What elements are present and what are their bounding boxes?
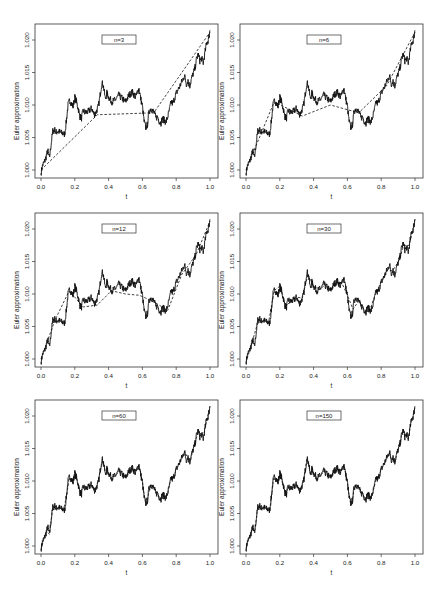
y-tick-label: 1.020 <box>228 32 235 48</box>
exact-path-line <box>246 30 415 175</box>
y-tick-label: 1.005 <box>228 129 235 145</box>
y-axis-label: Euler approximation <box>218 271 226 329</box>
legend-label: n=60 <box>112 413 126 419</box>
y-tick-label: 1.015 <box>23 64 30 80</box>
x-axis: 0.00.20.40.60.81.0 <box>242 554 420 566</box>
y-tick-label: 1.005 <box>228 318 235 334</box>
euler-plot: 0.00.20.40.60.81.0t1.0001.0051.0101.0151… <box>205 376 430 576</box>
y-tick-label: 1.020 <box>228 408 235 424</box>
x-tick-label: 0.8 <box>172 559 181 566</box>
y-tick-label: 1.010 <box>228 286 235 302</box>
x-axis-label: t <box>126 569 128 576</box>
euler-plot: 0.00.20.40.60.81.0t1.0001.0051.0101.0151… <box>0 0 225 200</box>
y-tick-label: 1.005 <box>23 505 30 521</box>
y-tick-label: 1.020 <box>23 408 30 424</box>
x-tick-label: 1.0 <box>411 559 420 566</box>
x-tick-label: 0.0 <box>37 559 46 566</box>
legend-box: n=150 <box>307 411 341 420</box>
legend-label: n=30 <box>317 226 331 232</box>
y-axis-label: Euler approximation <box>13 458 21 516</box>
euler-plot: 0.00.20.40.60.81.0t1.0001.0051.0101.0151… <box>205 0 430 200</box>
y-axis-label: Euler approximation <box>13 82 21 140</box>
y-axis: 1.0001.0051.0101.0151.020 <box>23 221 35 367</box>
x-tick-label: 0.4 <box>309 559 318 566</box>
y-tick-label: 1.010 <box>23 97 30 113</box>
panel-n30: 0.00.20.40.60.81.0t1.0001.0051.0101.0151… <box>205 189 430 389</box>
y-tick-label: 1.010 <box>23 473 30 489</box>
x-tick-label: 0.8 <box>377 559 386 566</box>
x-tick-label: 0.2 <box>70 559 79 566</box>
legend-label: n=12 <box>112 226 126 232</box>
y-tick-label: 1.015 <box>228 253 235 269</box>
legend-box: n=6 <box>307 35 341 44</box>
panel-n3: 0.00.20.40.60.81.0t1.0001.0051.0101.0151… <box>0 0 225 200</box>
euler-plot: 0.00.20.40.60.81.0t1.0001.0051.0101.0151… <box>0 189 225 389</box>
y-tick-label: 1.005 <box>228 505 235 521</box>
panel-n150: 0.00.20.40.60.81.0t1.0001.0051.0101.0151… <box>205 376 430 576</box>
panel-n60: 0.00.20.40.60.81.0t1.0001.0051.0101.0151… <box>0 376 225 576</box>
exact-path-line <box>246 219 415 364</box>
y-tick-label: 1.020 <box>23 221 30 237</box>
x-axis: 0.00.20.40.60.81.0 <box>37 554 215 566</box>
y-tick-label: 1.005 <box>23 129 30 145</box>
y-tick-label: 1.015 <box>23 440 30 456</box>
y-tick-label: 1.015 <box>228 64 235 80</box>
legend-box: n=30 <box>307 224 341 233</box>
exact-path-line <box>246 406 415 551</box>
y-axis: 1.0001.0051.0101.0151.020 <box>23 32 35 178</box>
y-axis-label: Euler approximation <box>218 82 226 140</box>
legend-box: n=60 <box>102 411 136 420</box>
y-axis-label: Euler approximation <box>218 458 226 516</box>
x-tick-label: 0.6 <box>343 559 352 566</box>
x-tick-label: 0.2 <box>275 559 284 566</box>
x-tick-label: 0.4 <box>104 559 113 566</box>
exact-path-line <box>41 30 210 175</box>
legend-label: n=150 <box>316 413 334 419</box>
y-tick-label: 1.000 <box>23 538 30 554</box>
y-axis: 1.0001.0051.0101.0151.020 <box>228 408 240 554</box>
x-tick-label: 0.0 <box>242 559 251 566</box>
y-axis-label: Euler approximation <box>13 271 21 329</box>
y-axis: 1.0001.0051.0101.0151.020 <box>23 408 35 554</box>
panel-n6: 0.00.20.40.60.81.0t1.0001.0051.0101.0151… <box>205 0 430 200</box>
y-tick-label: 1.000 <box>228 162 235 178</box>
y-tick-label: 1.020 <box>23 32 30 48</box>
x-tick-label: 0.6 <box>138 559 147 566</box>
panel-n12: 0.00.20.40.60.81.0t1.0001.0051.0101.0151… <box>0 189 225 389</box>
y-tick-label: 1.020 <box>228 221 235 237</box>
y-tick-label: 1.000 <box>23 351 30 367</box>
y-axis: 1.0001.0051.0101.0151.020 <box>228 32 240 178</box>
euler-plot: 0.00.20.40.60.81.0t1.0001.0051.0101.0151… <box>205 189 430 389</box>
exact-path-line <box>41 219 210 364</box>
legend-label: n=3 <box>114 37 125 43</box>
y-tick-label: 1.010 <box>228 97 235 113</box>
y-tick-label: 1.000 <box>228 538 235 554</box>
legend-box: n=3 <box>102 35 136 44</box>
y-tick-label: 1.015 <box>23 253 30 269</box>
x-axis-label: t <box>331 569 333 576</box>
y-tick-label: 1.015 <box>228 440 235 456</box>
legend-box: n=12 <box>102 224 136 233</box>
y-tick-label: 1.000 <box>23 162 30 178</box>
y-tick-label: 1.000 <box>228 351 235 367</box>
exact-path-line <box>41 406 210 551</box>
y-tick-label: 1.010 <box>23 286 30 302</box>
euler-plot: 0.00.20.40.60.81.0t1.0001.0051.0101.0151… <box>0 376 225 576</box>
euler-approx-line <box>246 406 415 549</box>
legend-label: n=6 <box>319 37 330 43</box>
y-tick-label: 1.010 <box>228 473 235 489</box>
y-tick-label: 1.005 <box>23 318 30 334</box>
y-axis: 1.0001.0051.0101.0151.020 <box>228 221 240 367</box>
